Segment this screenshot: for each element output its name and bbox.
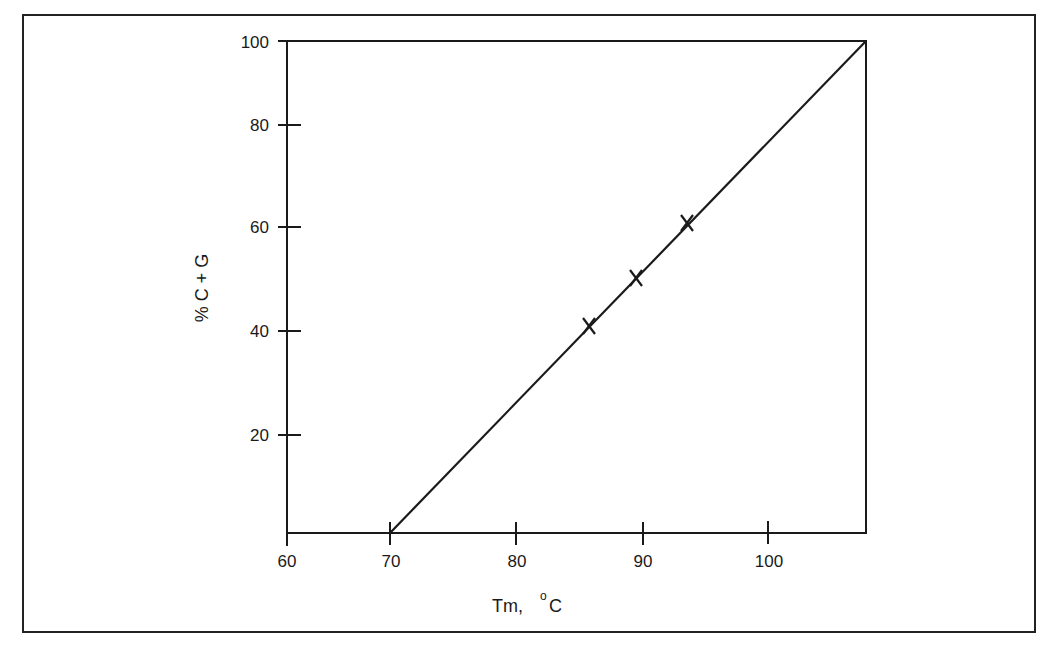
y-tick-label: 80 (250, 116, 269, 135)
plot-area (287, 41, 866, 533)
y-axis: 20 40 60 80 100 % C + G (192, 33, 301, 445)
x-axis-title: Tm, o C (492, 589, 562, 616)
x-marker-point-1 (583, 318, 595, 334)
y-tick-label: 100 (241, 33, 269, 52)
y-tick-label: 60 (250, 218, 269, 237)
x-tick-label: 60 (278, 552, 297, 571)
x-axis-title-main: Tm, (492, 596, 523, 616)
x-marker-point-2 (630, 270, 642, 286)
x-tick-label: 70 (382, 552, 401, 571)
x-tick-label: 100 (755, 552, 783, 571)
x-axis-title-unit: C (549, 596, 562, 616)
y-tick-label: 20 (250, 426, 269, 445)
y-axis-title: % C + G (192, 254, 212, 323)
x-tick-label: 80 (508, 552, 527, 571)
y-tick-label: 40 (250, 322, 269, 341)
x-axis: 60 70 80 90 100 Tm, o C (278, 521, 784, 616)
x-tick-label: 90 (634, 552, 653, 571)
x-axis-title-degree: o (540, 589, 547, 603)
chart: 20 40 60 80 100 % C + G 60 70 80 90 100 … (0, 0, 1057, 646)
fit-line (390, 41, 866, 533)
